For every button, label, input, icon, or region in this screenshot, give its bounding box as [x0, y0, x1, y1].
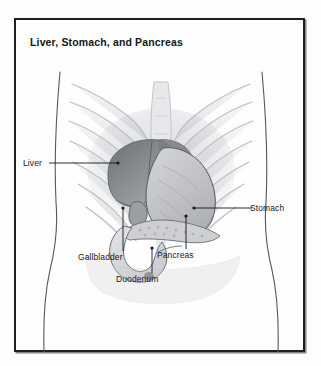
label-gallbladder: Gallbladder [78, 252, 123, 262]
label-stomach: Stomach [250, 203, 284, 213]
label-liver: Liver [23, 158, 42, 168]
illustration-page: Liver, Stomach, and Pancreas Liver Stoma… [0, 0, 321, 366]
leader-dot-liver [116, 161, 119, 164]
leader-dot-gallbladder [121, 206, 124, 209]
anatomy-figure [16, 20, 305, 352]
leader-dot-duodenum [150, 246, 153, 249]
label-pancreas: Pancreas [157, 250, 194, 260]
leader-dot-pancreas [184, 214, 187, 217]
leader-dot-stomach [192, 206, 195, 209]
figure-title: Liver, Stomach, and Pancreas [30, 36, 183, 48]
label-duodenum: Duodenum [116, 274, 158, 284]
